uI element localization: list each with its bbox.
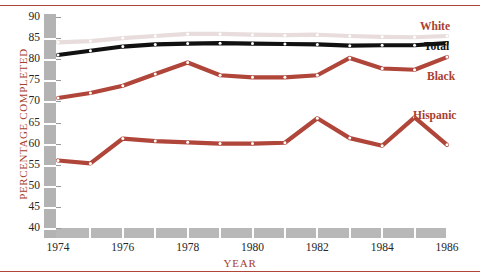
series-label-total: Total xyxy=(424,40,449,52)
series-line xyxy=(58,117,447,163)
data-point-marker xyxy=(219,32,222,35)
data-point-marker xyxy=(154,72,157,75)
data-point-marker xyxy=(219,74,222,77)
data-point-marker xyxy=(283,76,286,79)
series-label-black: Black xyxy=(427,70,455,82)
data-point-marker xyxy=(89,40,92,43)
data-point-marker xyxy=(186,61,189,64)
data-point-marker xyxy=(186,42,189,45)
data-point-marker xyxy=(446,143,449,146)
series-hispanic xyxy=(57,116,449,165)
data-point-marker xyxy=(186,32,189,35)
data-point-marker xyxy=(121,137,124,140)
data-point-marker xyxy=(219,142,222,145)
data-point-marker xyxy=(121,45,124,48)
data-point-marker xyxy=(446,34,449,37)
data-point-marker xyxy=(251,33,254,36)
data-point-marker xyxy=(57,41,60,44)
data-point-marker xyxy=(283,141,286,144)
data-point-marker xyxy=(413,36,416,39)
data-point-marker xyxy=(446,56,449,59)
data-point-marker xyxy=(381,144,384,147)
data-point-marker xyxy=(121,84,124,87)
data-point-marker xyxy=(316,43,319,46)
data-point-marker xyxy=(154,43,157,46)
data-point-marker xyxy=(89,91,92,94)
series-label-hispanic: Hispanic xyxy=(413,109,456,121)
data-point-marker xyxy=(283,34,286,37)
data-point-marker xyxy=(154,140,157,143)
data-point-marker xyxy=(186,141,189,144)
data-point-marker xyxy=(348,44,351,47)
x-axis-title: YEAR xyxy=(0,257,480,269)
data-point-marker xyxy=(251,142,254,145)
data-point-marker xyxy=(57,159,60,162)
data-point-marker xyxy=(381,44,384,47)
data-point-marker xyxy=(381,35,384,38)
data-point-marker xyxy=(57,97,60,100)
data-point-marker xyxy=(283,43,286,46)
data-point-marker xyxy=(89,162,92,165)
data-point-marker xyxy=(316,74,319,77)
data-point-marker xyxy=(219,42,222,45)
plot-area xyxy=(0,0,480,278)
data-point-marker xyxy=(348,56,351,59)
data-point-marker xyxy=(121,37,124,40)
data-point-marker xyxy=(316,117,319,120)
data-point-marker xyxy=(154,34,157,37)
chart-figure: 4045505560657075808590 19741976197819801… xyxy=(0,0,480,278)
data-point-marker xyxy=(381,67,384,70)
series-black xyxy=(57,56,449,100)
data-point-marker xyxy=(413,68,416,71)
data-point-marker xyxy=(251,42,254,45)
data-point-marker xyxy=(348,137,351,140)
data-point-marker xyxy=(413,44,416,47)
series-label-white: White xyxy=(420,20,450,32)
data-point-marker xyxy=(57,53,60,56)
series-total xyxy=(57,42,449,57)
y-axis-title: PERCENTAGE COMPLETED xyxy=(17,39,29,209)
data-point-marker xyxy=(316,33,319,36)
data-point-marker xyxy=(251,76,254,79)
data-point-marker xyxy=(348,34,351,37)
data-point-marker xyxy=(89,49,92,52)
